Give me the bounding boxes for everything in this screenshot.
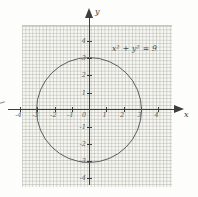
y-tick-label: 4	[82, 38, 86, 45]
x-tick-label: 4	[154, 112, 158, 119]
y-tick-label: 3	[82, 55, 86, 62]
y-tick-mark	[87, 178, 93, 179]
y-tick-mark	[87, 41, 93, 42]
x-tick-label: -3	[32, 112, 38, 119]
y-tick-label: 2	[82, 72, 86, 79]
left-edge-axis-fragment	[0, 101, 5, 104]
x-tick-label: 2	[120, 112, 124, 119]
x-tick-label: -1	[67, 112, 73, 119]
x-axis-arrow-icon	[174, 105, 184, 113]
graph-figure: -4 -3 -2 -1 0 1 2 3 4 4 3 2 1 -1 -2 -3 -…	[0, 0, 198, 197]
origin-label: 0	[82, 112, 86, 119]
y-tick-label: -3	[80, 158, 86, 165]
y-tick-label: -2	[80, 141, 86, 148]
y-axis-label: y	[95, 8, 100, 16]
y-tick-label: -1	[80, 124, 86, 131]
y-tick-label: 1	[82, 90, 86, 97]
x-tick-label: 1	[102, 112, 106, 119]
circle-curve	[36, 57, 142, 163]
equation-label: x² + y² = 9	[112, 45, 157, 53]
x-axis-label: x	[184, 111, 189, 119]
x-tick-label: -4	[15, 112, 21, 119]
x-tick-label: 3	[137, 112, 141, 119]
x-tick-label: -2	[50, 112, 56, 119]
y-tick-label: -4	[80, 175, 86, 182]
y-axis-arrow-icon	[85, 8, 93, 18]
